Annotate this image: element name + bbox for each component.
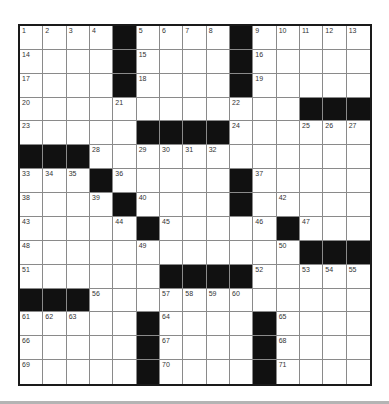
grid-cell[interactable] [323, 360, 346, 384]
grid-cell[interactable] [323, 193, 346, 217]
grid-cell[interactable] [230, 241, 253, 265]
grid-cell[interactable] [323, 145, 346, 169]
grid-cell[interactable]: 45 [160, 217, 183, 241]
grid-cell[interactable]: 28 [90, 145, 113, 169]
grid-cell[interactable]: 22 [230, 98, 253, 122]
grid-cell[interactable] [207, 74, 230, 98]
grid-cell[interactable] [113, 265, 136, 289]
grid-cell[interactable]: 6 [160, 26, 183, 50]
grid-cell[interactable] [207, 98, 230, 122]
grid-cell[interactable]: 62 [43, 312, 66, 336]
grid-cell[interactable] [300, 360, 323, 384]
grid-cell[interactable] [90, 336, 113, 360]
grid-cell[interactable]: 27 [347, 121, 370, 145]
grid-cell[interactable]: 25 [300, 121, 323, 145]
grid-cell[interactable] [137, 98, 160, 122]
grid-cell[interactable] [277, 74, 300, 98]
grid-cell[interactable]: 40 [137, 193, 160, 217]
grid-cell[interactable]: 57 [160, 289, 183, 313]
grid-cell[interactable] [253, 145, 276, 169]
grid-cell[interactable] [43, 241, 66, 265]
grid-cell[interactable] [43, 360, 66, 384]
grid-cell[interactable]: 24 [230, 121, 253, 145]
grid-cell[interactable] [113, 121, 136, 145]
grid-cell[interactable] [277, 121, 300, 145]
grid-cell[interactable] [113, 145, 136, 169]
grid-cell[interactable] [253, 289, 276, 313]
grid-cell[interactable]: 32 [207, 145, 230, 169]
grid-cell[interactable] [67, 241, 90, 265]
grid-cell[interactable] [183, 336, 206, 360]
grid-cell[interactable] [67, 217, 90, 241]
grid-cell[interactable]: 19 [253, 74, 276, 98]
grid-cell[interactable] [43, 217, 66, 241]
grid-cell[interactable] [43, 336, 66, 360]
grid-cell[interactable]: 60 [230, 289, 253, 313]
grid-cell[interactable]: 71 [277, 360, 300, 384]
grid-cell[interactable] [230, 360, 253, 384]
grid-cell[interactable] [183, 169, 206, 193]
grid-cell[interactable] [230, 217, 253, 241]
grid-cell[interactable] [323, 169, 346, 193]
grid-cell[interactable] [137, 169, 160, 193]
grid-cell[interactable]: 17 [20, 74, 43, 98]
grid-cell[interactable]: 37 [253, 169, 276, 193]
grid-cell[interactable] [90, 50, 113, 74]
grid-cell[interactable] [137, 289, 160, 313]
grid-cell[interactable]: 58 [183, 289, 206, 313]
grid-cell[interactable] [113, 312, 136, 336]
grid-cell[interactable]: 23 [20, 121, 43, 145]
grid-cell[interactable] [300, 74, 323, 98]
grid-cell[interactable] [160, 50, 183, 74]
grid-cell[interactable]: 13 [347, 26, 370, 50]
grid-cell[interactable] [113, 336, 136, 360]
grid-cell[interactable] [347, 312, 370, 336]
grid-cell[interactable] [347, 336, 370, 360]
grid-cell[interactable]: 21 [113, 98, 136, 122]
grid-cell[interactable] [323, 74, 346, 98]
grid-cell[interactable] [300, 50, 323, 74]
grid-cell[interactable]: 5 [137, 26, 160, 50]
grid-cell[interactable] [253, 241, 276, 265]
grid-cell[interactable]: 9 [253, 26, 276, 50]
grid-cell[interactable] [43, 265, 66, 289]
grid-cell[interactable]: 34 [43, 169, 66, 193]
grid-cell[interactable]: 55 [347, 265, 370, 289]
grid-cell[interactable] [67, 336, 90, 360]
grid-cell[interactable]: 12 [323, 26, 346, 50]
grid-cell[interactable]: 7 [183, 26, 206, 50]
grid-cell[interactable] [90, 121, 113, 145]
grid-cell[interactable]: 69 [20, 360, 43, 384]
grid-cell[interactable] [277, 289, 300, 313]
grid-cell[interactable] [67, 265, 90, 289]
grid-cell[interactable] [277, 169, 300, 193]
grid-cell[interactable] [90, 217, 113, 241]
grid-cell[interactable]: 66 [20, 336, 43, 360]
grid-cell[interactable] [160, 98, 183, 122]
grid-cell[interactable] [347, 50, 370, 74]
grid-cell[interactable]: 16 [253, 50, 276, 74]
grid-cell[interactable]: 31 [183, 145, 206, 169]
grid-cell[interactable]: 1 [20, 26, 43, 50]
grid-cell[interactable]: 65 [277, 312, 300, 336]
grid-cell[interactable] [230, 312, 253, 336]
grid-cell[interactable] [300, 289, 323, 313]
grid-cell[interactable]: 15 [137, 50, 160, 74]
grid-cell[interactable] [43, 98, 66, 122]
grid-cell[interactable] [277, 50, 300, 74]
grid-cell[interactable] [137, 265, 160, 289]
grid-cell[interactable] [277, 265, 300, 289]
grid-cell[interactable] [160, 193, 183, 217]
grid-cell[interactable] [300, 193, 323, 217]
grid-cell[interactable] [183, 193, 206, 217]
grid-cell[interactable] [113, 289, 136, 313]
grid-cell[interactable]: 56 [90, 289, 113, 313]
grid-cell[interactable] [90, 98, 113, 122]
grid-cell[interactable] [207, 193, 230, 217]
grid-cell[interactable]: 3 [67, 26, 90, 50]
grid-cell[interactable] [160, 74, 183, 98]
grid-cell[interactable]: 11 [300, 26, 323, 50]
grid-cell[interactable]: 52 [253, 265, 276, 289]
grid-cell[interactable]: 64 [160, 312, 183, 336]
grid-cell[interactable]: 49 [137, 241, 160, 265]
